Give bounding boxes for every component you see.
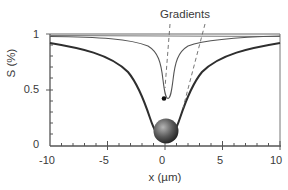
y-tick-label-0.5: 0.5: [24, 83, 39, 95]
annotation-gradients: Gradients: [160, 8, 210, 20]
x-tick-label--5: -5: [99, 154, 109, 166]
reference-line: [50, 36, 280, 37]
particle-sphere: [154, 119, 179, 144]
x-tick-label-0: 0: [159, 154, 165, 166]
x-tick-label-10: 10: [270, 154, 282, 166]
x-tick-label-5: 5: [217, 154, 223, 166]
x-axis-label: x (µm): [149, 171, 182, 183]
y-tick-label-1: 1: [33, 28, 39, 40]
chart-canvas: Gradients 1 0.5 0 -10 -5 0 5 10 x (µm) S…: [0, 0, 288, 190]
y-tick-label-0: 0: [33, 138, 39, 150]
y-axis-label: S (%): [5, 48, 17, 77]
narrow-dip-curve: [50, 36, 280, 99]
x-tick-label--10: -10: [39, 154, 55, 166]
minimum-dot: [162, 96, 167, 101]
